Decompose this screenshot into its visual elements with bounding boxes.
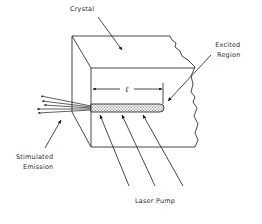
stimulated-emission-label-line1: Stimulated: [16, 152, 53, 162]
crystal-block: [72, 36, 198, 147]
laser-pump-arrows: [100, 115, 183, 186]
pump-arrow-1: [100, 115, 129, 186]
crystal-right-break: [191, 67, 198, 147]
excited-region-label: Excited Region: [209, 40, 240, 60]
crystal-pointer-arrow: [98, 17, 122, 50]
excited-region-rod: [91, 104, 164, 112]
stimulated-emission-label-line2: Emission: [16, 162, 53, 172]
crystal-label: Crystal: [70, 4, 94, 14]
excited-region-label-line2: Region: [209, 50, 240, 60]
length-symbol-label: ℓ: [123, 85, 130, 94]
crystal-laser-diagram: Crystal Excited Region ℓ Stimulated Emis…: [0, 0, 262, 224]
pump-arrow-2: [122, 115, 155, 186]
stimulated-emission-label: Stimulated Emission: [16, 152, 53, 172]
excited-region-label-line1: Excited: [209, 40, 240, 50]
stimulated-emission-rays: [37, 96, 91, 113]
crystal-top-edge: [72, 36, 195, 67]
diagram-drawing: [0, 0, 262, 224]
stimulated-emission-pointer-arrow: [45, 120, 61, 148]
laser-pump-label: Laser Pump: [135, 196, 175, 206]
pump-arrow-3: [143, 115, 183, 186]
